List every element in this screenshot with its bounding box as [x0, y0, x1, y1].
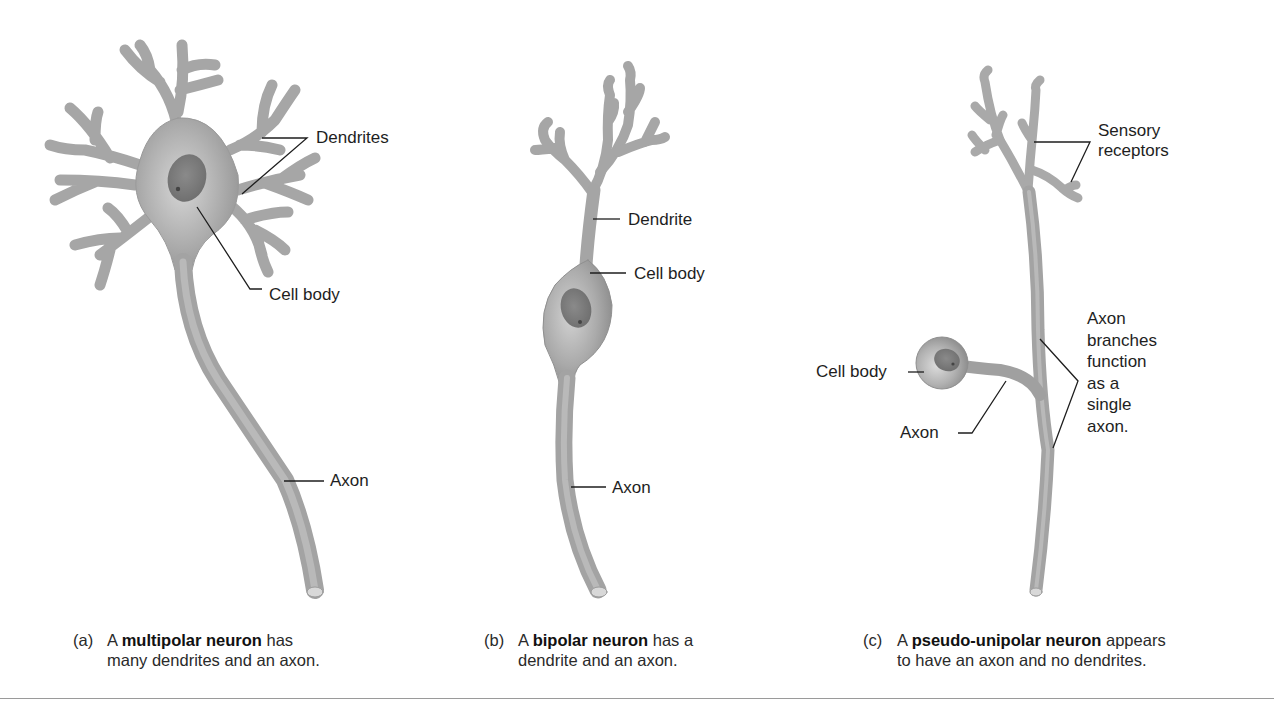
caption-line2: many dendrites and an axon. [107, 651, 320, 669]
caption-b: (b) A bipolar neuron has a dendrite and … [484, 630, 804, 674]
axon-branches-line: Axon [1087, 308, 1207, 330]
caption-a: (a) A multipolar neuron has many dendrit… [73, 630, 393, 674]
axon-branches-line: axon. [1087, 416, 1207, 438]
axon-branches-line: as a [1087, 373, 1207, 395]
label-cell-body-a: Cell body [269, 285, 340, 305]
caption-text: has a [648, 631, 693, 649]
label-cell-body-b: Cell body [634, 264, 705, 284]
label-axon-branches: Axon branches function as a single axon. [1087, 308, 1207, 437]
caption-text: appears [1101, 631, 1165, 649]
caption-letter-c: (c) [863, 630, 882, 650]
caption-body-b: A bipolar neuron has a dendrite and an a… [518, 630, 693, 670]
caption-text: has [262, 631, 293, 649]
caption-text: A [107, 631, 122, 649]
caption-letter-a: (a) [73, 630, 93, 650]
caption-text: A [897, 631, 912, 649]
caption-line2: to have an axon and no dendrites. [897, 651, 1147, 669]
multipolar-neuron [50, 45, 323, 597]
label-axon-a: Axon [330, 471, 369, 491]
bipolar-neuron [535, 66, 665, 597]
label-sensory-line1: Sensory [1098, 121, 1169, 141]
label-sensory-receptors: Sensory receptors [1098, 121, 1169, 161]
label-cell-body-c: Cell body [816, 362, 887, 382]
label-axon-b: Axon [612, 478, 651, 498]
pseudo-unipolar-neuron [916, 70, 1078, 596]
caption-body-a: A multipolar neuron has many dendrites a… [107, 630, 320, 670]
neuron-illustrations [0, 0, 1274, 712]
caption-letter-b: (b) [484, 630, 504, 650]
label-sensory-line2: receptors [1098, 141, 1169, 161]
caption-body-c: A pseudo-unipolar neuron appears to have… [897, 630, 1166, 670]
label-dendrites: Dendrites [316, 128, 389, 148]
caption-text: A [518, 631, 533, 649]
caption-term: pseudo-unipolar neuron [912, 631, 1102, 649]
bottom-divider [0, 698, 1274, 699]
caption-line2: dendrite and an axon. [518, 651, 678, 669]
axon-branches-line: function [1087, 351, 1207, 373]
label-axon-c: Axon [900, 423, 939, 443]
label-dendrite-b: Dendrite [628, 210, 692, 230]
axon-branches-line: single [1087, 394, 1207, 416]
caption-term: multipolar neuron [122, 631, 262, 649]
axon-branches-line: branches [1087, 330, 1207, 352]
caption-c: (c) A pseudo-unipolar neuron appears to … [863, 630, 1263, 674]
caption-term: bipolar neuron [533, 631, 649, 649]
